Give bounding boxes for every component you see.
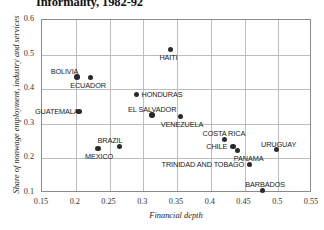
y-axis-title: Share of nonwage employment, industry an…	[12, 5, 21, 205]
data-point-label: HONDURAS	[142, 90, 183, 99]
x-gridline	[278, 20, 279, 191]
y-axis-tick-label: 0.1	[0, 187, 34, 196]
data-point-label: BRAZIL	[98, 136, 123, 145]
data-point-label: EL SALVADOR	[128, 105, 176, 114]
data-point-label: COSTA RICA	[203, 129, 246, 138]
data-point-label: HAITI	[159, 53, 177, 62]
data-point	[88, 75, 93, 80]
x-gridline	[245, 20, 246, 191]
data-point	[134, 92, 139, 97]
data-point-label: VENEZUELA	[161, 120, 204, 129]
data-point-label: BOLIVIA	[51, 67, 79, 76]
data-point-label: MEXICO	[85, 152, 113, 161]
data-point-label: URUGUAY	[261, 140, 296, 149]
data-point-label: TRINIDAD AND TOBAGO	[162, 160, 245, 169]
data-point	[235, 148, 240, 153]
data-point	[95, 146, 100, 151]
data-point-label: ECUADOR	[70, 81, 106, 90]
y-axis-tick-label: 0.4	[0, 83, 34, 92]
data-point-label: BARBADOS	[245, 180, 285, 189]
data-point-label: CHILE	[206, 142, 227, 151]
x-gridline	[76, 20, 77, 191]
y-axis-tick-label: 0.6	[0, 14, 34, 23]
y-axis-tick-label: 0.5	[0, 49, 34, 58]
x-axis-title: Financial depth	[41, 211, 311, 220]
page-title: Informality, 1982-92	[36, 0, 143, 10]
data-point	[247, 162, 252, 167]
y-axis-tick-label: 0.2	[0, 152, 34, 161]
x-axis-tick-label: 0.55	[291, 197, 324, 206]
data-point-label: GUATEMALA	[35, 107, 79, 116]
y-axis-tick-label: 0.3	[0, 118, 34, 127]
data-point	[168, 47, 173, 52]
scatter-chart-figure: Informality, 1982-92 Share of nonwage em…	[0, 0, 324, 230]
plot-area: HAITIBOLIVIAECUADORHONDURASGUATEMALAEL S…	[41, 19, 311, 192]
x-gridline	[110, 20, 111, 191]
data-point	[178, 114, 183, 119]
